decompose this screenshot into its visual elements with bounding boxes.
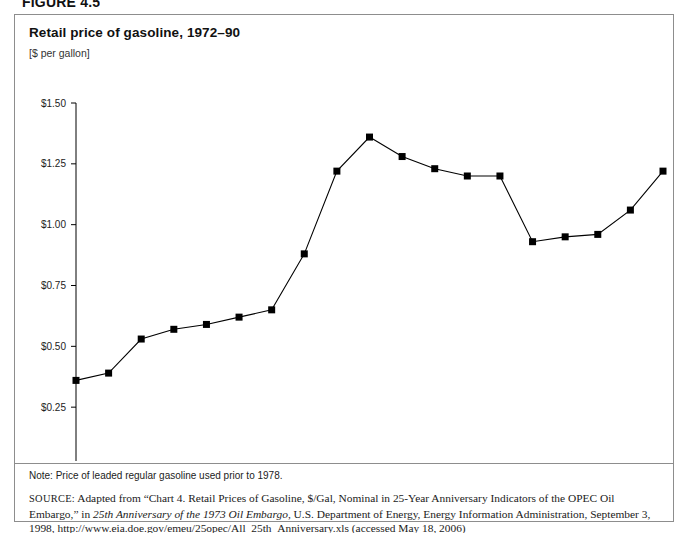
note-divider bbox=[15, 463, 673, 464]
data-point-marker: 1976: $0.59 bbox=[203, 321, 210, 328]
data-point-marker: 1981: $1.36 bbox=[366, 134, 373, 141]
source-label: SOURCE: bbox=[29, 493, 75, 504]
data-point-marker: 1978: $0.65 bbox=[268, 306, 275, 313]
data-point-marker: 1989: $1.06 bbox=[627, 207, 634, 214]
data-point-marker: 1983: $1.23 bbox=[431, 165, 438, 172]
data-point-marker: 1979: $0.88 bbox=[301, 250, 308, 257]
data-point-marker: 1985: $1.20 bbox=[496, 173, 503, 180]
data-point-marker: 1984: $1.20 bbox=[464, 173, 471, 180]
data-point-marker: 1980: $1.22 bbox=[333, 168, 340, 175]
series-line bbox=[76, 137, 663, 380]
data-point-marker: 1977: $0.62 bbox=[236, 314, 243, 321]
y-axis-tick-label: $1.25 bbox=[41, 158, 66, 169]
data-point-marker: 1974: $0.53 bbox=[138, 336, 145, 343]
figure-heading: FIGURE 4.5 bbox=[22, 0, 100, 10]
data-point-marker: 1975: $0.57 bbox=[170, 326, 177, 333]
data-point-marker: 1987: $0.95 bbox=[562, 233, 569, 240]
y-axis-tick-label: $0.25 bbox=[41, 402, 66, 413]
figure-panel: Retail price of gasoline, 1972–90 [$ per… bbox=[14, 14, 674, 522]
chart-source: SOURCE: Adapted from “Chart 4. Retail Pr… bbox=[29, 491, 661, 533]
chart-units-label: [$ per gallon] bbox=[29, 47, 90, 59]
data-point-marker: 1986: $0.93 bbox=[529, 238, 536, 245]
data-point-marker: 1990: $1.22 bbox=[660, 168, 667, 175]
line-chart-svg: $0.00$0.25$0.50$0.75$1.00$1.25$1.5019721… bbox=[15, 71, 675, 461]
chart-note: Note: Price of leaded regular gasoline u… bbox=[29, 470, 283, 481]
data-point-marker: 1982: $1.28 bbox=[399, 153, 406, 160]
source-italic-title: 25th Anniversary of the 1973 Oil Embargo bbox=[93, 508, 288, 520]
y-axis-tick-label: $1.00 bbox=[41, 219, 66, 230]
y-axis-tick-label: $0.75 bbox=[41, 280, 66, 291]
y-axis-tick-label: $1.50 bbox=[41, 98, 66, 109]
chart-plot-area: $0.00$0.25$0.50$0.75$1.00$1.25$1.5019721… bbox=[15, 71, 675, 461]
chart-title: Retail price of gasoline, 1972–90 bbox=[29, 25, 240, 40]
y-axis-tick-label: $0.50 bbox=[41, 341, 66, 352]
data-point-marker: 1988: $0.96 bbox=[594, 231, 601, 238]
data-point-marker: 1972: $0.36 bbox=[73, 377, 80, 384]
data-point-marker: 1973: $0.39 bbox=[105, 370, 112, 377]
